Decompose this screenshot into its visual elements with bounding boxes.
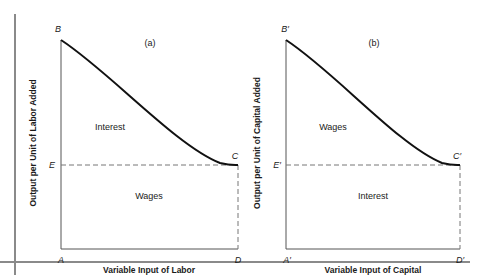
panel-b-marginal-product-curve — [286, 40, 460, 165]
panel-a-point-a: A — [57, 255, 64, 265]
panel-b-point-e: E′ — [273, 160, 281, 170]
panel-a: B (a) Interest C E Wages A D Variable In… — [28, 24, 242, 275]
panel-a-point-b: B — [55, 24, 61, 34]
panel-a-upper-region-label: Interest — [95, 122, 126, 132]
panel-a-lower-region-label: Wages — [135, 191, 163, 201]
panel-a-point-d: D — [235, 255, 242, 265]
panel-b-upper-region-label: Wages — [319, 122, 347, 132]
panel-a-x-axis-label: Variable Input of Labor — [103, 265, 196, 275]
panel-b-title: (b) — [369, 38, 380, 48]
panel-a-y-axis-label: Output per Unit of Labor Added — [28, 79, 38, 206]
diagram-canvas: B (a) Interest C E Wages A D Variable In… — [0, 0, 481, 275]
panel-b-x-axis-label: Variable Input of Capital — [325, 265, 422, 275]
panel-a-marginal-product-curve — [61, 40, 238, 165]
panel-b-point-c: C′ — [453, 151, 461, 161]
panel-b-y-axis-label: Output per Unit of Capital Added — [252, 77, 262, 209]
panel-b: B′ (b) Wages C′ E′ Interest A′ D′ Variab… — [252, 24, 464, 275]
panel-b-point-d: D′ — [456, 255, 464, 265]
panel-a-point-c: C — [232, 151, 239, 161]
panel-b-lower-region-label: Interest — [358, 191, 389, 201]
panel-a-point-e: E — [49, 160, 56, 170]
panel-b-point-a: A′ — [282, 255, 291, 265]
panel-a-title: (a) — [145, 38, 156, 48]
panel-b-point-b: B′ — [281, 24, 289, 34]
